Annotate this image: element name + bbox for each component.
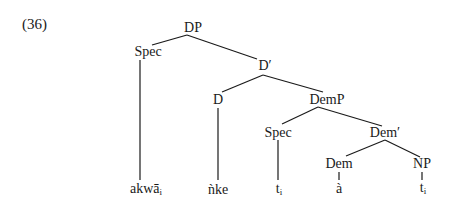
node-dem: Dem <box>325 156 352 172</box>
node-np: NP <box>413 156 431 172</box>
leaf-akwa: akwāi <box>130 181 162 200</box>
branch-demp-dembar <box>318 107 382 126</box>
node-spec-dp: Spec <box>134 44 161 60</box>
node-d: D <box>213 92 223 108</box>
node-dp: DP <box>184 20 202 36</box>
tree-branches <box>0 0 457 206</box>
branch-dbar-demp <box>263 75 323 92</box>
branch-dbar-d <box>222 75 263 92</box>
index-subscript: i <box>160 187 163 197</box>
leaf-a: à <box>336 181 342 197</box>
node-demp: DemP <box>310 92 345 108</box>
branch-dp-dbar <box>187 35 257 59</box>
example-number: (36) <box>22 16 47 33</box>
leaf-nke: ǹke <box>208 182 228 198</box>
leaf-trace-np: ti <box>420 180 426 199</box>
index-subscript: i <box>424 186 427 196</box>
node-dem-bar: Dem′ <box>370 125 400 141</box>
node-spec-demp: Spec <box>264 125 291 141</box>
branch-dembar-np <box>385 140 420 157</box>
index-subscript: i <box>280 187 283 197</box>
branch-demp-spec <box>282 107 318 124</box>
leaf-trace-spec: ti <box>276 181 282 200</box>
branch-dembar-dem <box>346 140 385 156</box>
node-d-bar: D′ <box>258 58 271 74</box>
